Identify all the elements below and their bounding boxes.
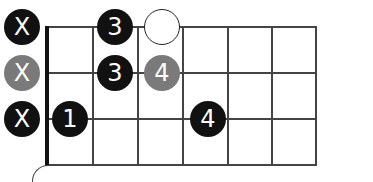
marker-label: 3: [107, 59, 122, 87]
fret-line-5: [271, 26, 273, 166]
open-marker: [144, 9, 180, 45]
marker-label: 1: [62, 105, 77, 133]
finger-marker: 3: [97, 55, 133, 91]
marker-label: 4: [154, 59, 169, 87]
muted-marker: X: [4, 55, 40, 91]
finger-marker: 3: [97, 9, 133, 45]
fret-line-3: [182, 26, 184, 166]
finger-marker: 4: [144, 55, 180, 91]
finger-marker: 4: [190, 101, 226, 137]
nut-line: [45, 26, 49, 166]
marker-label: X: [14, 105, 30, 133]
neck-curve: [32, 165, 50, 182]
muted-marker: X: [4, 101, 40, 137]
chord-diagram: X 3 X 3 4 X 1 4: [0, 0, 373, 182]
marker-label: X: [14, 59, 30, 87]
fret-line-6: [315, 26, 317, 166]
fret-line-1: [92, 26, 94, 166]
marker-label: X: [14, 13, 30, 41]
muted-marker: X: [4, 9, 40, 45]
marker-label: 3: [107, 13, 122, 41]
fret-line-4: [227, 26, 229, 166]
finger-marker: 1: [52, 101, 88, 137]
fret-line-2: [137, 26, 139, 166]
marker-label: 4: [200, 105, 215, 133]
